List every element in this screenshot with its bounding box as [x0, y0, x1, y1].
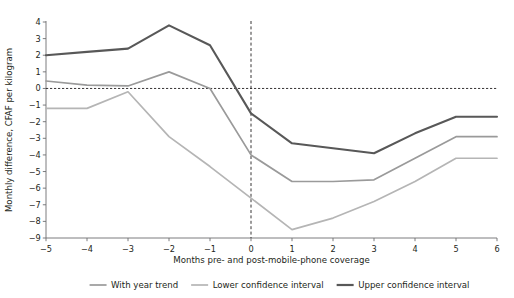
y-tick-label: −2	[29, 117, 41, 127]
x-tick-label: 1	[289, 244, 294, 254]
x-tick-label: −2	[163, 244, 175, 254]
x-tick-label: 4	[412, 244, 417, 254]
x-tick-label: 6	[494, 244, 499, 254]
series-line-upper-confidence-interval	[46, 25, 497, 153]
chart-figure: 43210−1−2−3−4−5−6−7−8−9−5−4−3−2−10123456…	[0, 0, 514, 298]
y-tick-label: −1	[29, 100, 41, 110]
y-tick-label: 4	[36, 17, 41, 27]
legend-label-2: Upper confidence interval	[358, 280, 469, 290]
x-tick-label: −5	[40, 244, 52, 254]
y-tick-label: 2	[36, 50, 41, 60]
y-tick-label: 1	[36, 67, 41, 77]
y-tick-label: −3	[29, 133, 41, 143]
legend-label-0: With year trend	[111, 280, 178, 290]
y-tick-label: −9	[29, 233, 41, 243]
x-tick-label: 0	[248, 244, 253, 254]
y-axis-title: Monthly difference, CFAF per kilogram	[4, 48, 14, 212]
series-line-lower-confidence-interval	[46, 92, 497, 230]
y-tick-label: −4	[29, 150, 41, 160]
line-chart-svg: 43210−1−2−3−4−5−6−7−8−9−5−4−3−2−10123456…	[0, 0, 514, 298]
x-axis-title: Months pre- and post-mobile-phone covera…	[173, 255, 369, 265]
legend-label-1: Lower confidence interval	[213, 280, 324, 290]
x-tick-label: −1	[204, 244, 216, 254]
y-tick-label: −8	[29, 216, 41, 226]
x-tick-label: 2	[330, 244, 335, 254]
y-tick-label: −7	[29, 200, 41, 210]
x-tick-label: 5	[453, 244, 458, 254]
x-tick-label: −3	[122, 244, 134, 254]
y-tick-label: 3	[36, 34, 41, 44]
y-tick-label: −6	[29, 183, 41, 193]
x-tick-label: −4	[81, 244, 93, 254]
x-tick-label: 3	[371, 244, 376, 254]
y-tick-label: −5	[29, 167, 41, 177]
y-tick-label: 0	[36, 83, 41, 93]
